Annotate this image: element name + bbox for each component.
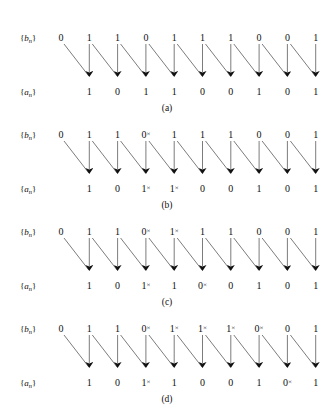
- bottom-bit-2: 1×: [137, 377, 155, 390]
- bottom-bit-2: 1: [137, 86, 155, 97]
- bit-value: 1: [228, 129, 233, 140]
- cross-marker-icon: ×: [175, 184, 179, 192]
- diagonal-arrow-5: [206, 44, 231, 76]
- bit-value: 0: [115, 280, 120, 291]
- bit-value: 1: [200, 129, 205, 140]
- top-bit-9: 1: [307, 226, 325, 237]
- top-bit-6: 1: [222, 129, 240, 140]
- bottom-bit-0: 1: [80, 86, 98, 97]
- diagonal-arrow-3: [149, 44, 174, 76]
- top-bit-4: 1×: [165, 323, 183, 336]
- diagonal-arrow-3: [149, 238, 174, 270]
- diagonal-arrow-2: [121, 44, 146, 76]
- bit-value: 1: [143, 86, 148, 97]
- top-bit-2: 1: [109, 32, 127, 43]
- label-subscript: n: [29, 134, 32, 141]
- bottom-bit-8: 1: [307, 377, 325, 388]
- top-bit-3: 0×: [137, 129, 155, 142]
- bit-value: 0: [285, 129, 290, 140]
- bottom-bit-7: 0×: [278, 377, 296, 390]
- label-open: {a: [20, 378, 29, 388]
- cross-marker-icon: ×: [146, 281, 150, 289]
- bottom-row-label: {an}: [20, 87, 36, 97]
- top-bit-4: 1×: [165, 226, 183, 239]
- diagonal-arrow-8: [290, 141, 315, 173]
- diagonal-arrow-7: [262, 335, 287, 367]
- cross-marker-icon: ×: [175, 324, 179, 332]
- label-subscript: n: [29, 382, 32, 389]
- top-bit-6: 1: [222, 32, 240, 43]
- label-subscript: n: [29, 285, 32, 292]
- bit-value: 1: [313, 377, 318, 388]
- bottom-bit-3: 1: [165, 280, 183, 291]
- bottom-bit-4: 0: [194, 183, 212, 194]
- bit-value: 1: [200, 32, 205, 43]
- bit-value: 1: [228, 32, 233, 43]
- top-bit-1: 1: [80, 226, 98, 237]
- diagonal-arrow-6: [234, 238, 259, 270]
- panel-caption-b: (b): [0, 200, 334, 210]
- bit-value: 1: [313, 226, 318, 237]
- diagonal-arrow-4: [177, 238, 202, 270]
- panel-caption-d: (d): [0, 394, 334, 404]
- bottom-row-label: {an}: [20, 378, 36, 388]
- bottom-bit-7: 0: [278, 86, 296, 97]
- bottom-bit-8: 1: [307, 86, 325, 97]
- top-row-label: {bn}: [20, 227, 36, 237]
- top-bit-9: 1: [307, 323, 325, 334]
- cross-marker-icon: ×: [288, 378, 292, 386]
- bit-value: 1: [87, 226, 92, 237]
- bit-value: 0: [200, 183, 205, 194]
- top-bit-1: 1: [80, 32, 98, 43]
- top-bit-7: 0: [250, 226, 268, 237]
- label-open: {a: [20, 281, 29, 291]
- top-bit-5: 1×: [194, 323, 212, 336]
- label-close: }: [32, 227, 36, 237]
- bottom-bit-5: 0: [222, 377, 240, 388]
- top-bit-1: 1: [80, 129, 98, 140]
- bottom-bit-0: 1: [80, 377, 98, 388]
- panel-d: {bn}{an}0110×1×1×1×0×01101×10010×1(d): [0, 309, 334, 409]
- diagonal-arrow-8: [290, 238, 315, 270]
- diagonal-arrow-1: [92, 141, 117, 173]
- bit-value: 0: [200, 86, 205, 97]
- cross-marker-icon: ×: [146, 130, 150, 138]
- top-bit-7: 0×: [250, 323, 268, 336]
- cross-marker-icon: ×: [146, 184, 150, 192]
- diagonal-arrow-6: [234, 141, 259, 173]
- bit-value: 0: [255, 323, 260, 334]
- top-bit-2: 1: [109, 129, 127, 140]
- cross-marker-icon: ×: [203, 281, 207, 289]
- diagonal-arrow-7: [262, 44, 287, 76]
- diagonal-arrow-5: [206, 335, 231, 367]
- bottom-bit-3: 1: [165, 377, 183, 388]
- bit-value: 1: [200, 226, 205, 237]
- bit-value: 1: [313, 32, 318, 43]
- label-open: {a: [20, 184, 29, 194]
- bit-value: 0: [228, 86, 233, 97]
- label-open: {b: [20, 324, 29, 334]
- top-bit-9: 1: [307, 129, 325, 140]
- top-bit-5: 1: [194, 129, 212, 140]
- bit-value: 0: [59, 323, 64, 334]
- bottom-bit-8: 1: [307, 280, 325, 291]
- bit-value: 1: [115, 226, 120, 237]
- bit-value: 0: [257, 32, 262, 43]
- bit-value: 1: [257, 377, 262, 388]
- label-subscript: n: [29, 188, 32, 195]
- bit-value: 0: [59, 129, 64, 140]
- bit-value: 1: [87, 280, 92, 291]
- bit-value: 0: [228, 280, 233, 291]
- bottom-row-label: {an}: [20, 184, 36, 194]
- bit-value: 0: [228, 377, 233, 388]
- bit-value: 1: [87, 32, 92, 43]
- diagonal-arrow-2: [121, 238, 146, 270]
- top-bit-2: 1: [109, 226, 127, 237]
- cross-marker-icon: ×: [231, 324, 235, 332]
- bottom-bit-1: 0: [109, 86, 127, 97]
- top-bit-7: 0: [250, 129, 268, 140]
- top-bit-6: 1×: [222, 323, 240, 336]
- cross-marker-icon: ×: [146, 378, 150, 386]
- diagonal-arrow-0: [64, 335, 89, 367]
- label-close: }: [32, 87, 36, 97]
